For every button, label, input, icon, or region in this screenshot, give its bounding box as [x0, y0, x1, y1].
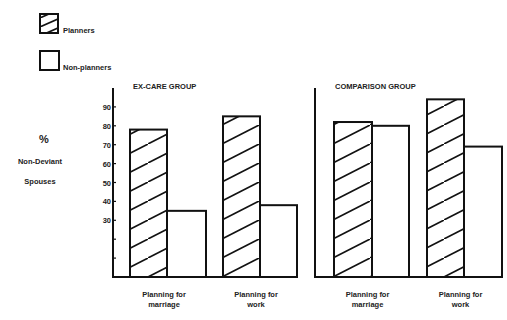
x-category-label: Planning for [346, 290, 390, 299]
x-category-label: marriage [352, 300, 384, 309]
bar-planners [334, 122, 372, 277]
bar-non-planners [260, 205, 297, 277]
y-tick-label: 30 [103, 216, 111, 225]
y-label-line-3: Spouses [24, 177, 55, 186]
legend-swatch-non-planners [40, 51, 59, 70]
bar-planners [427, 99, 464, 277]
x-category-label: Planning for [234, 290, 278, 299]
x-category-label: Planning for [439, 290, 483, 299]
y-label-percent: % [39, 133, 49, 145]
bar-planners [130, 130, 167, 277]
bar-non-planners [464, 147, 502, 277]
y-tick-label: 60 [103, 160, 111, 169]
legend-swatch-planners [40, 14, 58, 33]
bar-chart: Planners Non-planners % Non-Deviant Spou… [0, 0, 507, 320]
y-tick-label: 50 [103, 179, 111, 188]
legend-label-non-planners: Non-planners [63, 63, 111, 72]
panel-ex-care: EX-CARE GROUP30405060708090Planning form… [103, 82, 297, 309]
bar-non-planners [372, 126, 409, 277]
y-tick-label: 90 [103, 103, 111, 112]
legend-label-planners: Planners [63, 26, 95, 35]
y-label-line-2: Non-Deviant [18, 157, 63, 166]
bar-non-planners [167, 211, 206, 277]
x-category-label: work [246, 300, 265, 309]
x-category-label: marriage [148, 300, 180, 309]
x-category-label: work [451, 300, 470, 309]
y-tick-label: 80 [103, 122, 111, 131]
y-axis-label: % Non-Deviant Spouses [18, 133, 63, 186]
panel-title: COMPARISON GROUP [335, 82, 416, 91]
panel-title: EX-CARE GROUP [133, 82, 196, 91]
y-tick-label: 70 [103, 141, 111, 150]
y-tick-label: 40 [103, 197, 111, 206]
x-category-label: Planning for [142, 290, 186, 299]
legend: Planners Non-planners [40, 14, 111, 72]
bar-planners [223, 116, 260, 277]
panel-comparison: COMPARISON GROUPPlanning formarriagePlan… [314, 82, 503, 309]
